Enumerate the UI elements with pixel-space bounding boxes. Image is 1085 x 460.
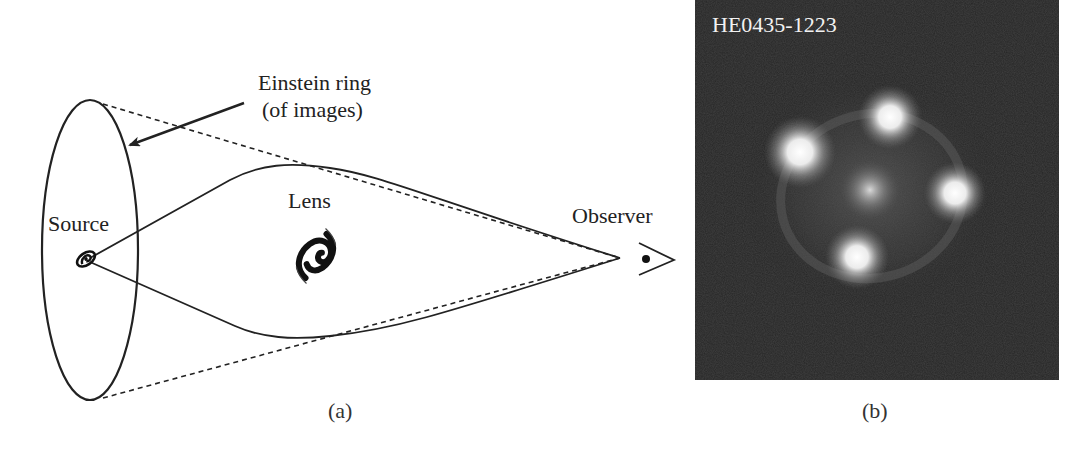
panel-b-photo: HE0435-1223 (b)	[695, 0, 1059, 423]
panel-a-caption: (a)	[328, 398, 352, 423]
lens-label: Lens	[288, 188, 331, 213]
lens-galaxy-core	[840, 160, 900, 220]
einstein-ring-ellipse	[42, 100, 138, 400]
light-path-lower	[90, 258, 620, 338]
gravitational-lensing-figure: Einstein ring (of images) Source Lens Ob…	[0, 0, 1085, 460]
einstein-ring-sublabel: (of images)	[262, 97, 363, 122]
quasar-image-b	[858, 85, 922, 149]
panel-b-caption: (b)	[862, 398, 888, 423]
lens-galaxy-icon	[289, 225, 343, 286]
einstein-ring-pointer-arrow	[130, 103, 244, 145]
quasar-image-a	[764, 116, 836, 188]
cone-bottom-dashed-line	[103, 258, 620, 398]
object-name-label: HE0435-1223	[712, 12, 837, 37]
quasar-image-c	[924, 162, 986, 224]
observer-label: Observer	[572, 203, 653, 228]
source-galaxy-icon	[74, 248, 97, 269]
observer-eye-icon	[639, 243, 674, 275]
einstein-ring-label: Einstein ring	[258, 70, 371, 95]
panel-a-diagram: Einstein ring (of images) Source Lens Ob…	[42, 70, 674, 423]
source-label: Source	[48, 211, 109, 236]
quasar-image-d	[825, 225, 889, 289]
